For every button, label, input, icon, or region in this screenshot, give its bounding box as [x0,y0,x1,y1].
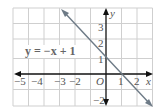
y-axis-top-arrow-icon [103,8,109,15]
x-axis-label: x [145,75,151,87]
equation-label: y = −x + 1 [25,44,76,58]
y-tick: 1 [98,53,104,65]
y-tick: 3 [98,21,104,33]
x-tick: −5 [14,75,26,87]
x-tick: −4 [31,75,43,87]
y-tick: −2 [93,94,105,106]
y-axis-label: y [109,7,115,19]
x-tick: −3 [54,75,66,87]
coordinate-plane: y = −x + 1 y x O −5 −4 −3 −2 1 2 3 2 1 −… [0,0,162,112]
origin-label: O [96,75,104,87]
x-tick: 1 [118,75,124,87]
y-tick: 2 [98,37,104,49]
x-tick: 2 [134,75,140,87]
x-tick: −2 [69,75,81,87]
